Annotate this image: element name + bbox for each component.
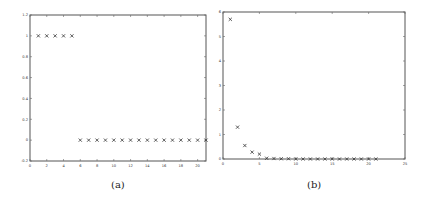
plot-b-ytick-label: 4 <box>219 59 222 63</box>
caption-a: (a) <box>111 179 125 190</box>
plot-a-data-point <box>54 34 57 37</box>
plot-a-data-point <box>196 139 199 142</box>
plot-a-xtick-label: 0 <box>29 164 32 168</box>
plot-a-ytick-label: 0.8 <box>22 55 28 59</box>
plot-a-data-point <box>121 139 124 142</box>
plot-b-xtick-label: 5 <box>258 162 260 166</box>
plot-a-xtick-label: 20 <box>195 164 200 168</box>
plot-a-xtick-label: 4 <box>62 164 65 168</box>
plot-a: 02468101214161820-0.200.20.40.60.811.2 <box>21 13 208 168</box>
plot-a-data-point <box>37 34 40 37</box>
plot-b-ytick-label: 6 <box>219 10 222 14</box>
plot-a-data-point <box>162 139 165 142</box>
plot-b-ytick-label: 5 <box>219 35 221 39</box>
plot-a-ytick-label: 0 <box>26 138 29 142</box>
plot-b: 05101520250123456 <box>219 10 408 166</box>
plot-a-xtick-label: 14 <box>145 164 150 168</box>
plot-b-xtick-label: 25 <box>403 162 408 166</box>
plot-b-axes-frame <box>223 12 405 159</box>
caption-b: (b) <box>307 179 321 190</box>
plot-a-ytick-label: 1.2 <box>22 13 28 17</box>
plot-a-ytick-label: 0.4 <box>22 97 28 101</box>
figure-canvas: 02468101214161820-0.200.20.40.60.811.2 0… <box>0 0 425 206</box>
plot-b-xtick-label: 20 <box>366 162 371 166</box>
plot-a-data-point <box>146 139 149 142</box>
plot-a-xtick-label: 12 <box>128 164 133 168</box>
plot-a-xtick-label: 10 <box>112 164 117 168</box>
plot-b-data-point <box>251 151 254 154</box>
plot-a-xtick-label: 2 <box>46 164 48 168</box>
plot-a-data-point <box>79 139 82 142</box>
plot-b-data-point <box>258 153 261 156</box>
plot-a-xtick-label: 18 <box>179 164 184 168</box>
plot-a-data-point <box>95 139 98 142</box>
plot-a-data-point <box>129 139 132 142</box>
plot-b-ytick-label: 3 <box>219 84 221 88</box>
plot-a-data-point <box>104 139 107 142</box>
plot-b-data-point <box>243 144 246 147</box>
plot-b-xtick-label: 15 <box>330 162 335 166</box>
plot-a-ytick-label: -0.2 <box>21 159 28 163</box>
plot-b-ytick-label: 1 <box>219 133 221 137</box>
plot-a-data-point <box>112 139 115 142</box>
plot-a-data-point <box>154 139 157 142</box>
plot-a-data-point <box>188 139 191 142</box>
plot-a-xtick-label: 16 <box>162 164 167 168</box>
plot-b-xtick-label: 0 <box>222 162 225 166</box>
plot-a-xtick-label: 6 <box>79 164 82 168</box>
plot-a-data-point <box>62 34 65 37</box>
plot-a-data-point <box>137 139 140 142</box>
plot-b-data-point <box>236 126 239 129</box>
plot-a-ytick-label: 0.2 <box>22 118 28 122</box>
plot-b-ytick-label: 0 <box>219 157 222 161</box>
plot-b-data-point <box>229 18 232 21</box>
plot-a-data-point <box>171 139 174 142</box>
plot-a-data-point <box>87 139 90 142</box>
plot-a-data-point <box>70 34 73 37</box>
plot-b-ytick-label: 2 <box>219 108 221 112</box>
plot-a-ytick-label: 0.6 <box>22 76 28 80</box>
plot-a-ytick-label: 1 <box>26 34 28 38</box>
plot-a-xtick-label: 8 <box>96 164 99 168</box>
plot-a-data-point <box>179 139 182 142</box>
plot-b-xtick-label: 10 <box>294 162 299 166</box>
plot-a-data-point <box>45 34 48 37</box>
